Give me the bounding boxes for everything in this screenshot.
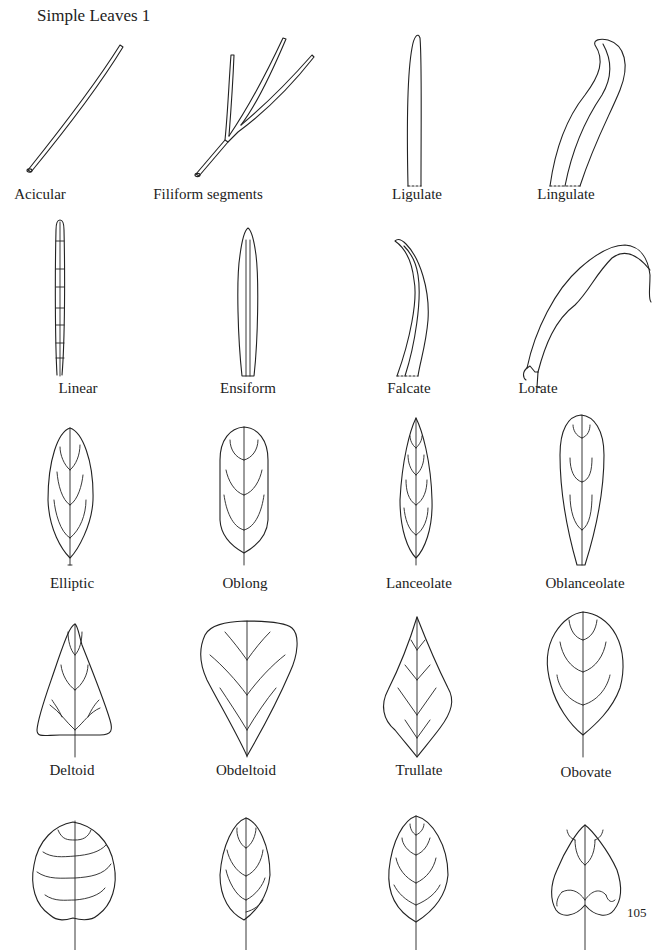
label-oblong: Oblong <box>223 575 268 592</box>
label-acicular: Acicular <box>14 186 66 203</box>
leaf-falcate <box>395 240 428 376</box>
label-lanceolate: Lanceolate <box>386 575 452 592</box>
leaf-cordate <box>552 825 621 950</box>
leaf-lingulate <box>550 39 625 186</box>
leaf-filiform-segments <box>195 38 314 177</box>
label-obovate: Obovate <box>561 764 612 781</box>
leaf-lorate <box>524 245 652 388</box>
label-ligulate: Ligulate <box>392 186 442 203</box>
leaf-trullate <box>384 617 452 757</box>
label-linear: Linear <box>58 380 97 397</box>
leaf-elliptic <box>48 428 93 565</box>
leaf-obdeltoid <box>201 621 297 757</box>
label-lingulate: Lingulate <box>537 186 594 203</box>
leaf-orbicular <box>33 821 116 950</box>
leaf-ovate <box>389 816 448 950</box>
leaf-oblong <box>220 427 268 565</box>
leaf-elliptic-2 <box>220 818 270 950</box>
label-filiform-segments: Filiform segments <box>153 186 263 203</box>
leaf-ensiform <box>238 228 258 376</box>
leaf-oblanceolate <box>560 415 604 565</box>
leaf-illustrations <box>0 0 653 950</box>
leaf-acicular <box>27 45 123 172</box>
label-lorate: Lorate <box>518 380 557 397</box>
leaf-linear <box>55 220 64 376</box>
leaf-obovate <box>547 612 623 757</box>
label-elliptic: Elliptic <box>50 575 94 592</box>
label-oblanceolate: Oblanceolate <box>545 575 624 592</box>
label-deltoid: Deltoid <box>50 762 95 779</box>
leaf-deltoid <box>37 624 111 757</box>
leaf-lanceolate <box>400 418 432 565</box>
label-obdeltoid: Obdeltoid <box>216 762 276 779</box>
leaf-shapes-page: Simple Leaves 1 <box>0 0 653 950</box>
page-number: 105 <box>627 905 647 921</box>
leaf-ligulate <box>407 35 421 186</box>
label-falcate: Falcate <box>387 380 430 397</box>
label-ensiform: Ensiform <box>220 380 276 397</box>
label-trullate: Trullate <box>396 762 443 779</box>
